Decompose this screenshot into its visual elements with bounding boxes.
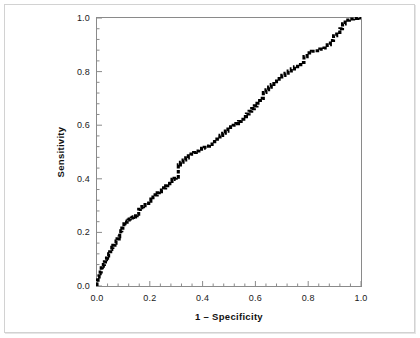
x-tick-label: 0.6 xyxy=(249,293,262,303)
x-tick-label: 0.4 xyxy=(196,293,209,303)
y-tick-label: 1.0 xyxy=(70,13,90,23)
x-tick-label: 0.2 xyxy=(143,293,156,303)
roc-curve-figure: 0.00.20.40.60.81.0 0.00.20.40.60.81.0 1 … xyxy=(0,0,420,338)
x-axis-title: 1 – Specificity xyxy=(195,311,263,322)
y-tick-label: 0.0 xyxy=(70,281,90,291)
x-tick-label: 0.8 xyxy=(302,293,315,303)
roc-curve-series xyxy=(97,18,361,286)
plot-area xyxy=(96,17,362,287)
tick-marks xyxy=(97,18,361,286)
y-axis-title: Sensitivity xyxy=(55,127,66,178)
x-tick-label: 0.0 xyxy=(90,293,103,303)
x-tick-label: 1.0 xyxy=(354,293,367,303)
y-tick-label: 0.2 xyxy=(70,227,90,237)
y-tick-label: 0.4 xyxy=(70,174,90,184)
y-tick-label: 0.6 xyxy=(70,120,90,130)
y-tick-label: 0.8 xyxy=(70,67,90,77)
